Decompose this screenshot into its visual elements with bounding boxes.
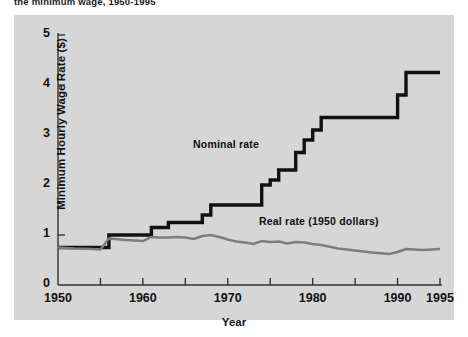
annotation-nominal-rate: Nominal rate [193,138,259,150]
y-tick-label: 3 [28,126,50,140]
x-tick-label: 1960 [119,291,167,305]
x-axis-label: Year [0,316,468,328]
y-tick-label: 0 [28,276,50,290]
x-tick-label: 1980 [289,291,337,305]
y-tick-label: 1 [28,226,50,240]
y-tick-label: 2 [28,176,50,190]
x-tick-label: 1970 [204,291,252,305]
x-tick-label: 1950 [34,291,82,305]
x-tick-label: 1990 [374,291,422,305]
minimum-wage-chart-figure: the minimum wage, 1950-1995 Minimum Hour… [0,0,468,337]
y-tick-label: 5 [28,26,50,40]
chart-canvas [0,0,468,337]
x-tick-label: 1995 [416,291,464,305]
annotation-real-rate: Real rate (1950 dollars) [259,215,379,227]
y-axis-label: Minimum Hourly Wage Rate ($) [55,19,67,229]
y-tick-label: 4 [28,76,50,90]
